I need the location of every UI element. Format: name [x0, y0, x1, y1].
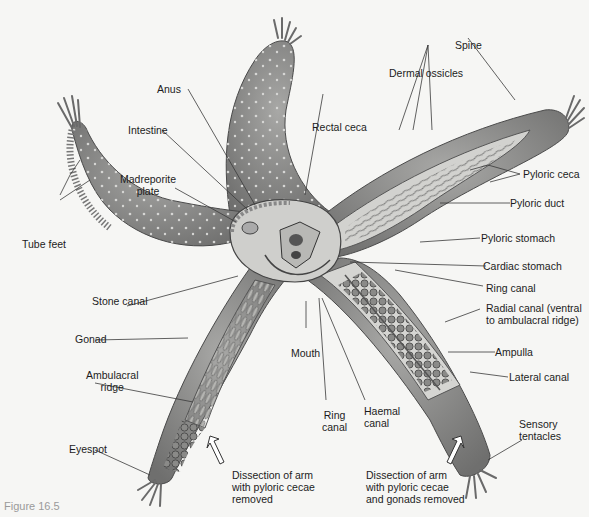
- starfish-anatomy-figure: Anus Intestine Madreporite plate Tube fe…: [0, 0, 589, 517]
- label-pyloric-duct: Pyloric duct: [510, 197, 564, 209]
- label-dermal-ossicles: Dermal ossicles: [389, 67, 463, 79]
- central-disk: [230, 200, 341, 282]
- label-ring-canal-right: Ring canal: [486, 282, 536, 294]
- label-dissection-right: Dissection of arm with pyloric cecae and…: [366, 469, 465, 505]
- label-dissection-left: Dissection of arm with pyloric cecae rem…: [232, 469, 315, 505]
- label-stone-canal: Stone canal: [92, 295, 147, 307]
- label-cardiac-stomach: Cardiac stomach: [483, 260, 562, 272]
- label-intestine: Intestine: [128, 124, 168, 136]
- arm-top: [226, 18, 330, 215]
- label-ring-canal-bottom: Ring canal: [322, 409, 347, 433]
- label-anus: Anus: [157, 83, 181, 95]
- label-pyloric-stomach: Pyloric stomach: [481, 232, 555, 244]
- label-ampulla: Ampulla: [495, 346, 533, 358]
- label-gonad: Gonad: [75, 333, 107, 345]
- label-ambulacral-ridge: Ambulacral ridge: [86, 369, 139, 393]
- label-radial-canal: Radial canal (ventral to ambulacral ridg…: [486, 302, 582, 326]
- dissection-arrows: [207, 436, 464, 464]
- label-mouth: Mouth: [291, 347, 320, 359]
- arm-right-lower: [300, 258, 496, 498]
- label-pyloric-ceca: Pyloric ceca: [523, 168, 580, 180]
- label-eyespot: Eyespot: [69, 443, 107, 455]
- label-spine: Spine: [455, 39, 482, 51]
- label-tube-feet: Tube feet: [22, 238, 66, 250]
- label-rectal-ceca: Rectal ceca: [312, 121, 367, 133]
- label-haemal-canal: Haemal canal: [364, 405, 400, 429]
- arm-left: [58, 96, 245, 246]
- figure-caption: Figure 16.5: [4, 500, 60, 512]
- label-lateral-canal: Lateral canal: [509, 371, 569, 383]
- label-sensory-tentacles: Sensory tentacles: [519, 418, 561, 442]
- label-madreporite-plate: Madreporite plate: [120, 173, 176, 197]
- starfish-illustration: [0, 0, 589, 517]
